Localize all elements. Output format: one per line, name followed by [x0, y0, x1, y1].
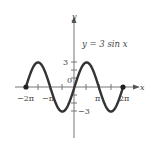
y-axis-label: y: [71, 12, 77, 21]
x-tick-label-negpi: −π: [42, 94, 54, 103]
x-tick-label-neg2pi: −2π: [17, 94, 34, 103]
y-tick-label-3: 3: [63, 58, 68, 67]
endpoint-right: [120, 84, 125, 89]
sine-chart: y x y = 3 sin x 3 −3 0 −2π −π π 2π: [0, 0, 147, 144]
equation-label: y = 3 sin x: [81, 39, 128, 49]
endpoint-left: [23, 84, 28, 89]
origin-label: 0: [67, 76, 72, 85]
x-tick-label-pi: π: [95, 94, 100, 103]
y-tick-label-neg3: −3: [78, 107, 90, 116]
x-axis-label: x: [140, 83, 145, 92]
x-axis-arrow-icon: [133, 85, 140, 90]
x-tick-label-2pi: 2π: [119, 94, 129, 103]
